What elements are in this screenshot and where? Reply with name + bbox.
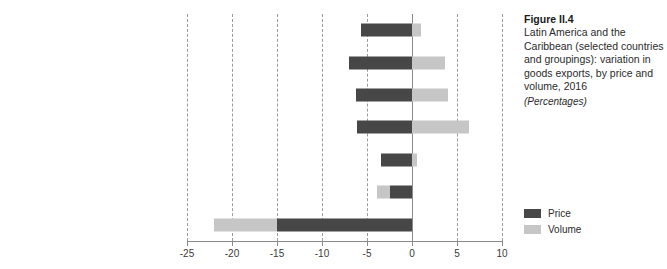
x-tick-label-10: 10 [496,248,507,259]
x-tick-label--5: -5 [363,248,372,259]
bar-price [390,186,412,199]
bar-row: Exporters of mining productsa [0,79,315,111]
bar-volume [214,218,277,231]
x-tick--20 [232,241,233,246]
gridline-10 [502,14,503,241]
bar-volume [377,186,391,199]
x-tick-label--25: -25 [180,248,194,259]
chart-plot: -25-20-15-10-50510 Latin AmericaBrazilEx… [0,0,510,269]
x-tick-label--15: -15 [270,248,284,259]
bar-row: Mexico [0,144,315,176]
figure-number: Figure II.4 [524,12,664,26]
bar-row: Latin America [0,14,315,46]
x-tick--15 [277,241,278,246]
bar-volume [412,88,448,101]
bar-price [356,88,412,101]
x-tick-0 [412,241,413,246]
bar-price [349,56,412,69]
figure-units: (Percentages) [524,95,664,109]
figure-title: Latin America and the Caribbean (selecte… [524,26,664,94]
x-axis-line [187,241,502,242]
legend-label: Volume [548,224,581,235]
bar-row: Central America, Haiti and Dominican Rep… [0,176,315,208]
legend-swatch-icon [524,225,541,234]
x-tick--10 [322,241,323,246]
x-tick-10 [502,241,503,246]
legend-label: Price [548,208,571,219]
bar-row: Exporters of agro-industrial productsb [0,111,315,143]
bar-price [277,218,412,231]
figure-caption: Figure II.4 Latin America and the Caribb… [524,12,664,109]
x-tick-label-5: 5 [454,248,460,259]
bar-volume [412,153,417,166]
x-tick--25 [187,241,188,246]
gridline--10 [322,14,323,241]
x-tick-label--10: -10 [315,248,329,259]
x-tick-5 [457,241,458,246]
x-tick--5 [367,241,368,246]
x-tick-label--20: -20 [225,248,239,259]
bar-volume [412,56,445,69]
bar-row: Hydrocarbon exportersc [0,208,315,240]
chart-legend: PriceVolume [524,208,581,240]
bar-price [381,153,412,166]
bar-row: Brazil [0,46,315,78]
legend-swatch-icon [524,209,541,218]
legend-item-price[interactable]: Price [524,208,581,219]
bar-volume [412,121,469,134]
legend-item-volume[interactable]: Volume [524,224,581,235]
bar-price [361,24,412,37]
x-tick-label-0: 0 [409,248,415,259]
figure-container: -25-20-15-10-50510 Latin AmericaBrazilEx… [0,0,667,269]
bar-volume [412,24,421,37]
bar-price [357,121,412,134]
